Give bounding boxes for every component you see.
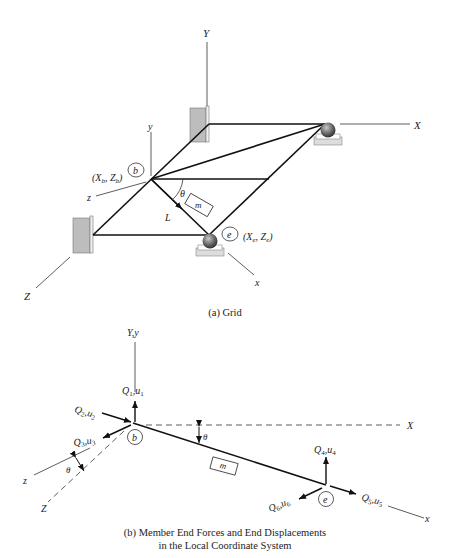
member-line (133, 423, 326, 485)
force-label-q4: Q4,u4 (314, 444, 336, 457)
node-e-label: e (222, 227, 238, 241)
svg-text:e: e (227, 229, 232, 240)
local-z-label-b: z (22, 475, 27, 486)
global-z-axis (36, 257, 70, 288)
caption-b-line2: in the Local Coordinate System (159, 540, 292, 551)
global-z-label: Z (24, 290, 31, 302)
node-b-coords: (Xb, Zb) (92, 172, 123, 185)
global-x-label: X (413, 119, 422, 131)
node-b-label-b: b (128, 430, 143, 445)
fixed-support-back-icon (190, 106, 209, 142)
caption-b-line1: (b) Member End Forces and End Displaceme… (124, 527, 326, 539)
theta-arrow-z (76, 458, 84, 471)
local-x-axis-b (388, 506, 424, 518)
theta-label-z: θ (66, 465, 71, 475)
force-arrow-q5 (330, 486, 356, 494)
force-label-q1: Q1,u1 (122, 385, 144, 398)
figure-a-grid: Y X Z L θ (24, 27, 422, 319)
node-b-label: b (128, 163, 144, 177)
svg-text:Q3,u3: Q3,u3 (73, 434, 97, 450)
force-label-q3: Q3,u3 (73, 434, 97, 450)
length-label: L (164, 212, 171, 223)
node-e-coords: (Xe, Ze) (243, 231, 273, 244)
svg-text:Q6,u6: Q6,u6 (267, 495, 292, 515)
force-label-q2: Q2,u2 (73, 403, 98, 422)
member-label-box-b: m (210, 457, 238, 475)
svg-text:e: e (323, 494, 328, 505)
svg-text:b: b (133, 165, 138, 176)
fixed-support-front-icon (73, 216, 93, 253)
local-y-label: y (147, 121, 153, 132)
grid-member-diagram: Y X Z L θ (0, 0, 451, 558)
local-x-axis (228, 253, 254, 275)
svg-text:Q2,u2: Q2,u2 (73, 403, 98, 422)
global-x-label-b: X (406, 420, 414, 431)
force-label-q5: Q5,u5 (360, 491, 385, 509)
roller-support-front-icon (196, 234, 224, 257)
global-z-label-b: Z (41, 503, 47, 514)
member-label-box: m (185, 193, 214, 217)
force-label-q6: Q6,u6 (267, 495, 292, 515)
force-arrow-q3 (103, 425, 131, 438)
local-x-label-b: x (424, 513, 430, 524)
local-z-axis-b (34, 448, 90, 475)
global-y-label: Y (203, 27, 211, 39)
svg-text:b: b (132, 432, 137, 443)
caption-a: (a) Grid (208, 307, 242, 319)
node-e-label-b: e (319, 492, 334, 507)
svg-text:m: m (195, 200, 202, 210)
local-x-label: x (254, 277, 260, 288)
force-arrow-q2 (102, 413, 131, 422)
theta-label: θ (180, 188, 185, 199)
svg-text:Q5,u5: Q5,u5 (360, 491, 385, 509)
vertical-axis-label: Y,y (127, 327, 139, 338)
local-z-label: z (86, 192, 91, 203)
theta-label-x: θ (203, 432, 208, 442)
figure-b-member-forces: Y,y X x z Z θ θ Q1,u1 Q2,u2 (22, 327, 430, 551)
